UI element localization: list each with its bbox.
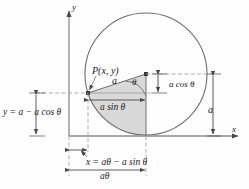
x-equation-label: x = aθ − a sin θ [86,158,147,168]
p-leader-line [90,76,97,90]
y-axis-label: y [72,3,76,12]
y-equation-label: y = a − a cos θ [3,108,61,118]
a-cos-theta-dimension [146,74,167,93]
a-sin-theta-label: a sin θ [100,103,125,113]
arc-length-label: aθ [100,172,109,182]
right-radius-a-label: a [208,105,213,115]
a-cos-theta-label: a cos θ [169,80,194,89]
x-axis-label: x [232,125,236,134]
cycloid-diagram: y x P(x, y) a θ a cos θ a sin θ a y = a … [0,0,249,189]
radius-a-label: a [112,76,117,86]
x-dimension [70,150,87,157]
theta-angle-label: θ [132,78,136,87]
